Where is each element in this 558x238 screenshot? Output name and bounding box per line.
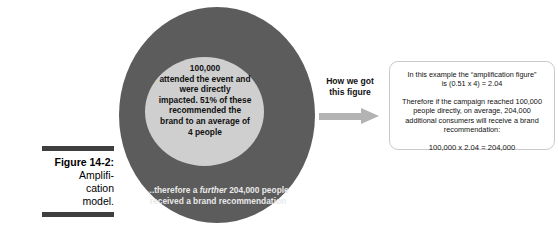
amplification-circle-diagram: 100,000 attended the event and were dire… [119, 7, 315, 223]
inner-text-line-1: 100,000 [139, 63, 271, 74]
inner-text-line-6: brand to an average of [139, 116, 271, 127]
outer-text-line-2: received a brand recommendation [127, 196, 309, 207]
outer-text-pre: ...therefore a [147, 185, 200, 195]
figure-title-line-3: model. [12, 195, 114, 208]
figure-number: Figure 14-2: [12, 156, 114, 169]
outer-text-emphasis: further [200, 185, 227, 195]
caption-rule-bottom [42, 212, 114, 217]
outer-text-post: 204,000 people [227, 185, 289, 195]
inner-circle-text: 100,000 attended the event and were dire… [139, 63, 271, 137]
arrow-right-icon [319, 108, 381, 124]
explanation-paragraph-1: In this example the “amplification figur… [398, 70, 546, 89]
explanation-box: In this example the “amplification figur… [389, 61, 555, 150]
explanation-p2-line-1: Therefore if the campaign reached 100,00… [398, 97, 546, 106]
arrow-head [361, 108, 379, 124]
outer-circle-text: ...therefore a further 204,000 people re… [127, 185, 309, 207]
figure-caption-text: Figure 14-2: Amplifi- cation model. [12, 156, 114, 208]
explanation-paragraph-2: Therefore if the campaign reached 100,00… [398, 97, 546, 135]
connector-label-line-2: this figure [312, 87, 388, 98]
inner-text-line-3: were directly [139, 84, 271, 95]
caption-rule-top [42, 146, 114, 151]
connector-group: How we got this figure [312, 76, 388, 124]
arrow-shaft [319, 113, 363, 120]
explanation-p2-line-3: additional consumers will receive a bran… [398, 116, 546, 125]
inner-text-line-2: attended the event and [139, 74, 271, 85]
outer-text-line-1: ...therefore a further 204,000 people [127, 185, 309, 196]
figure-caption: Figure 14-2: Amplifi- cation model. [12, 146, 114, 217]
explanation-p1-line-2: is (0.51 x 4) = 2.04 [398, 79, 546, 88]
explanation-equation: 100,000 x 2.04 = 204,000 [398, 143, 546, 152]
figure-title-line-2: cation [12, 182, 114, 195]
connector-label: How we got this figure [312, 76, 388, 98]
inner-text-line-7: 4 people [139, 127, 271, 138]
inner-text-line-5: recommended the [139, 105, 271, 116]
explanation-p2-line-4: recommendation: [398, 125, 546, 134]
explanation-p2-line-2: people directly, on average, 204,000 [398, 106, 546, 115]
explanation-p1-line-1: In this example the “amplification figur… [398, 70, 546, 79]
connector-label-line-1: How we got [312, 76, 388, 87]
inner-text-line-4: impacted. 51% of these [139, 95, 271, 106]
figure-title-line-1: Amplifi- [12, 169, 114, 182]
